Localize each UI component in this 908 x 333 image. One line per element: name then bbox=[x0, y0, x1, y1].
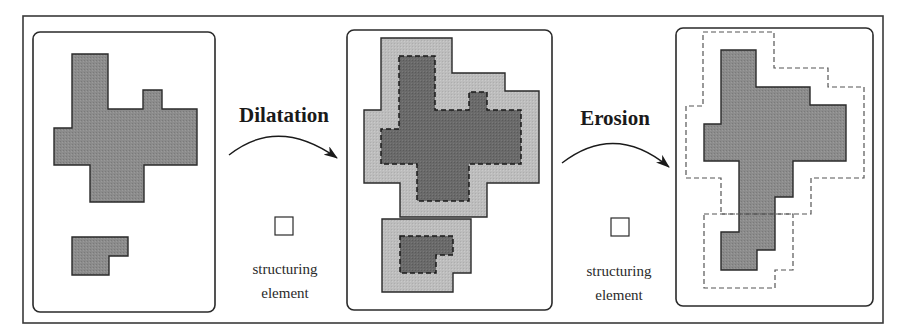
element-label: element bbox=[595, 287, 643, 303]
panel-dilated bbox=[347, 30, 552, 310]
panel-eroded bbox=[676, 28, 873, 306]
element-label: element bbox=[261, 285, 309, 301]
operation-dilatation: Dilatation structuring element bbox=[229, 103, 337, 301]
operation-title: Dilatation bbox=[239, 103, 329, 127]
operation-erosion: Erosion structuring element bbox=[562, 106, 669, 303]
structuring-label: structuring bbox=[253, 261, 318, 277]
operation-title: Erosion bbox=[580, 106, 650, 130]
structuring-label: structuring bbox=[587, 263, 652, 279]
morphology-diagram: Dilatation structuring element Erosion s… bbox=[0, 0, 908, 333]
arrow-icon bbox=[562, 143, 669, 167]
structuring-element-square-icon bbox=[275, 217, 293, 235]
structuring-element-square-icon bbox=[611, 218, 629, 236]
arrow-icon bbox=[229, 136, 337, 158]
panel-original bbox=[33, 32, 215, 312]
